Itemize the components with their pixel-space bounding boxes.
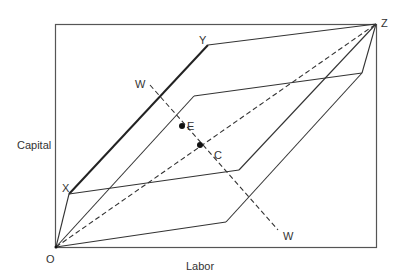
line-o-to-x (56, 194, 69, 247)
point-e (179, 123, 185, 129)
point-o (55, 246, 58, 249)
line-o-to-lower (56, 222, 226, 247)
line-x-to-inner (69, 170, 239, 194)
label-x: X (62, 182, 70, 194)
label-o: O (46, 253, 55, 265)
label-e: E (187, 120, 194, 132)
line-inner-mid-to-z (239, 24, 376, 170)
line-inner-left-to-top (56, 96, 194, 247)
label-c: C (214, 149, 222, 161)
edgeworth-box-diagram: Z Y W E C X W O Capital Labor (0, 0, 402, 279)
axis-label-capital: Capital (17, 139, 51, 151)
dashed-diagonal-o-z (56, 24, 376, 247)
line-lower-to-right (226, 73, 362, 222)
label-z: Z (381, 17, 388, 29)
label-w-top: W (135, 78, 146, 90)
line-y-to-z (208, 24, 376, 45)
label-y: Y (199, 34, 207, 46)
line-inner-top (194, 73, 362, 96)
axis-label-labor: Labor (186, 260, 214, 272)
point-c (197, 142, 203, 148)
label-w-bottom: W (283, 230, 294, 242)
